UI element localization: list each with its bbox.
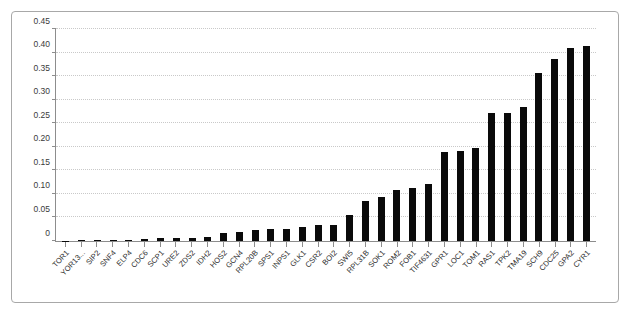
x-label-slot: SOK1 <box>373 248 389 302</box>
bar[interactable] <box>583 46 590 242</box>
x-label-slot: SWI5 <box>341 248 357 302</box>
x-tick-mark <box>476 242 477 247</box>
bar-slot <box>405 29 421 241</box>
bar[interactable] <box>283 229 290 241</box>
bar[interactable] <box>315 225 322 241</box>
x-tick-mark <box>65 242 66 247</box>
bar-slot <box>216 29 232 241</box>
bar[interactable] <box>425 184 432 241</box>
bar[interactable] <box>299 227 306 241</box>
x-tick-mark <box>223 242 224 247</box>
x-label-slot: SNF4 <box>104 248 120 302</box>
x-tick-mark <box>302 242 303 247</box>
x-label-slot: SPS1 <box>262 248 278 302</box>
x-label-slot: ELP4 <box>120 248 136 302</box>
bar-slot <box>168 29 184 241</box>
y-tick-label: 0.45 <box>33 16 50 25</box>
bar-slot <box>452 29 468 241</box>
y-tick-label: 0.30 <box>33 87 50 96</box>
bar-slot <box>310 29 326 241</box>
bar[interactable] <box>252 230 259 241</box>
bar-slot <box>90 29 106 241</box>
bar-slot <box>373 29 389 241</box>
y-tick-label: 0.10 <box>33 181 50 190</box>
bar-slot <box>436 29 452 241</box>
bar[interactable] <box>362 201 369 242</box>
bar[interactable] <box>141 239 148 241</box>
x-label-slot: RPL31B <box>357 248 373 302</box>
x-tick-mark <box>333 242 334 247</box>
bar[interactable] <box>62 241 69 242</box>
x-axis-labels: TOR1YOR13...SIP2SNF4ELP4CDC6SCP1URE2ZDS2… <box>55 248 596 302</box>
x-tick-mark <box>175 242 176 247</box>
bar-slot <box>515 29 531 241</box>
bar[interactable] <box>488 113 495 241</box>
bar[interactable] <box>189 238 196 241</box>
bar[interactable] <box>504 113 511 241</box>
x-tick-mark <box>349 242 350 247</box>
bar[interactable] <box>236 232 243 241</box>
bar[interactable] <box>409 188 416 241</box>
bar[interactable] <box>220 233 227 241</box>
bar[interactable] <box>535 73 542 241</box>
bar[interactable] <box>173 238 180 241</box>
bar[interactable] <box>94 240 101 241</box>
bar-slot <box>499 29 515 241</box>
bar[interactable] <box>441 152 448 242</box>
plot-area: 00.050.100.150.200.250.300.350.400.45 <box>55 29 596 242</box>
bar-slot <box>105 29 121 241</box>
y-tick-label: 0.35 <box>33 63 50 72</box>
bar[interactable] <box>125 240 132 241</box>
y-tick-label: 0 <box>45 228 50 237</box>
bar[interactable] <box>567 48 574 241</box>
bar[interactable] <box>346 215 353 241</box>
bar[interactable] <box>110 240 117 241</box>
bar-slot <box>531 29 547 241</box>
bar[interactable] <box>457 151 464 241</box>
x-tick-mark <box>144 242 145 247</box>
x-label-slot: LOC1 <box>452 248 468 302</box>
bar-slot <box>153 29 169 241</box>
y-tick-label: 0.25 <box>33 110 50 119</box>
bar-slot <box>200 29 216 241</box>
x-tick-mark <box>270 242 271 247</box>
x-tick-mark <box>507 242 508 247</box>
y-tick-label: 0.05 <box>33 205 50 214</box>
bar-slot <box>231 29 247 241</box>
bar[interactable] <box>472 148 479 241</box>
bar[interactable] <box>267 229 274 241</box>
bar-slot <box>74 29 90 241</box>
x-label-slot: HOS2 <box>215 248 231 302</box>
bar[interactable] <box>393 190 400 241</box>
bar-slot <box>484 29 500 241</box>
bar[interactable] <box>378 197 385 241</box>
bar-slot <box>358 29 374 241</box>
x-tick-mark <box>286 242 287 247</box>
bar[interactable] <box>157 238 164 241</box>
x-tick-mark <box>570 242 571 247</box>
x-tick-mark <box>428 242 429 247</box>
x-label-slot: SIP2 <box>89 248 105 302</box>
bar-slot <box>58 29 74 241</box>
bar-slot <box>263 29 279 241</box>
x-tick-mark <box>207 242 208 247</box>
x-tick-mark <box>160 242 161 247</box>
bar[interactable] <box>551 59 558 241</box>
bar-slot <box>137 29 153 241</box>
x-label-slot: RAS1 <box>484 248 500 302</box>
x-tick-mark <box>318 242 319 247</box>
bar[interactable] <box>204 237 211 241</box>
bar-slot <box>184 29 200 241</box>
x-tick-mark <box>381 242 382 247</box>
bar-slot <box>578 29 594 241</box>
x-label-slot: GPR1 <box>436 248 452 302</box>
x-tick-mark <box>586 242 587 247</box>
bar-slot <box>326 29 342 241</box>
x-tick-mark <box>397 242 398 247</box>
bar[interactable] <box>330 225 337 241</box>
x-label-slot: IDH2 <box>199 248 215 302</box>
x-label-slot: ZDS2 <box>183 248 199 302</box>
bar[interactable] <box>78 240 85 241</box>
bar-slot <box>279 29 295 241</box>
bar[interactable] <box>520 107 527 241</box>
